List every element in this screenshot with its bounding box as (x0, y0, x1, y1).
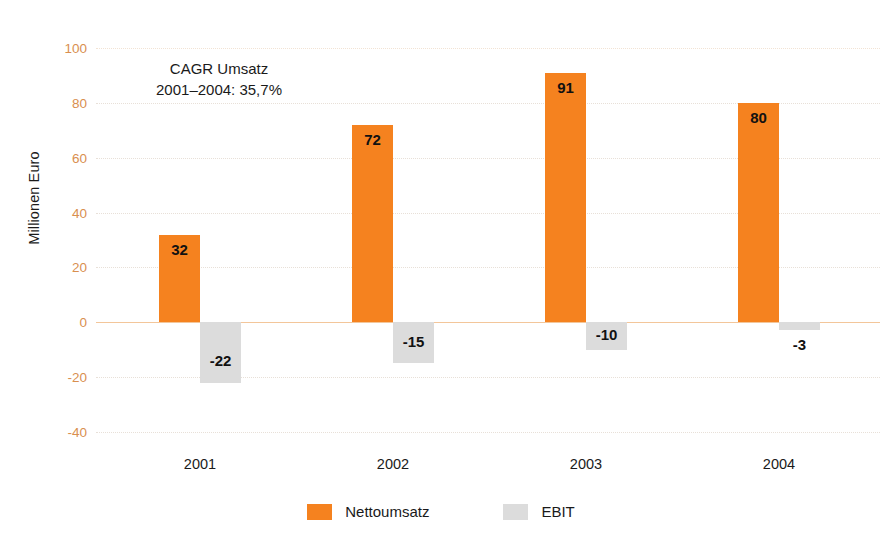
bar-label-nettoumsatz-2002: 72 (364, 131, 381, 148)
bar-chart: Millionen Euro 100 80 60 40 20 0 -20 -40… (0, 0, 882, 551)
bar-label-nettoumsatz-2001: 32 (171, 241, 188, 258)
bar-label-nettoumsatz-2003: 91 (557, 79, 574, 96)
bar-ebit-2004 (779, 322, 820, 330)
y-axis-title: Millionen Euro (26, 118, 42, 278)
bar-label-nettoumsatz-2004: 80 (750, 109, 767, 126)
plot-area: 100 80 60 40 20 0 -20 -40 32 -22 72 -15 … (96, 48, 880, 432)
bar-label-ebit-2003: -10 (596, 326, 618, 343)
bar-label-ebit-2004: -3 (793, 336, 806, 353)
legend-label-ebit: EBIT (541, 503, 574, 520)
x-tick-2003: 2003 (570, 456, 602, 472)
y-tick-40: 40 (72, 205, 87, 220)
legend-label-nettoumsatz: Nettoumsatz (345, 503, 429, 520)
y-tick-60: 60 (72, 150, 87, 165)
y-tick-minus-20: -20 (67, 370, 87, 385)
y-tick-80: 80 (72, 95, 87, 110)
gridline-100 (96, 48, 880, 49)
legend-item-nettoumsatz[interactable]: Nettoumsatz (307, 503, 429, 520)
bar-nettoumsatz-2003 (545, 73, 586, 323)
y-tick-0: 0 (79, 315, 87, 330)
bar-label-ebit-2002: -15 (403, 333, 425, 350)
cagr-annotation-line1: CAGR Umsatz (104, 58, 334, 79)
chart-legend: Nettoumsatz EBIT (0, 503, 882, 520)
bar-nettoumsatz-2004 (738, 103, 779, 322)
cagr-annotation: CAGR Umsatz 2001–2004: 35,7% (104, 58, 334, 101)
x-tick-2004: 2004 (763, 456, 795, 472)
x-tick-2002: 2002 (377, 456, 409, 472)
y-tick-100: 100 (64, 41, 87, 56)
y-tick-minus-40: -40 (67, 425, 87, 440)
cagr-annotation-line2: 2001–2004: 35,7% (104, 79, 334, 100)
y-tick-20: 20 (72, 260, 87, 275)
legend-swatch-ebit (503, 504, 528, 520)
gridline-minus-40 (96, 432, 880, 433)
x-tick-2001: 2001 (184, 456, 216, 472)
legend-swatch-nettoumsatz (307, 504, 332, 520)
legend-item-ebit[interactable]: EBIT (503, 503, 574, 520)
bar-nettoumsatz-2002 (352, 125, 393, 323)
bar-label-ebit-2001: -22 (210, 352, 232, 369)
